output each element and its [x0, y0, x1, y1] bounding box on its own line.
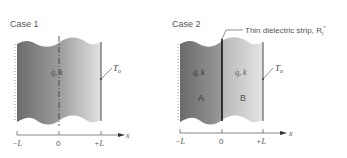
case1-to-label: To — [113, 63, 121, 74]
case2-a-name: A — [198, 93, 204, 103]
case2-region-b — [222, 37, 263, 122]
case2-region-a — [180, 41, 222, 125]
case2-tick-0: 0 — [219, 137, 224, 146]
case2-tick-pos-L: +L — [256, 137, 266, 146]
case2-a-generation-label: q̇, k — [193, 68, 205, 77]
case1-generation-label: q̇, k — [51, 68, 63, 77]
case1-to-leader — [101, 68, 112, 79]
case1-axis-label: x — [125, 131, 130, 140]
case2-to-label: To — [275, 63, 283, 74]
case2-axis-arrow-icon — [280, 131, 287, 135]
case1-tick-neg-L: −L — [12, 139, 22, 148]
case1-title: Case 1 — [10, 19, 39, 29]
case2-strip-label: Thin dielectric strip, Rt″ — [245, 25, 326, 36]
case2-to-leader — [263, 68, 273, 79]
diagram-canvas: Case 1 q̇, k To −L 0 +L x Case 2 — [0, 0, 347, 158]
case1-axis-arrow-icon — [118, 133, 125, 137]
case1-tick-0: 0 — [56, 139, 61, 148]
case1-group: Case 1 q̇, k To −L 0 +L x — [10, 19, 130, 148]
case2-b-name: B — [240, 93, 246, 103]
case2-axis-label: x — [288, 129, 293, 138]
case2-tick-neg-L: −L — [175, 137, 185, 146]
case2-title: Case 2 — [172, 19, 201, 29]
case2-b-generation-label: q̇, k — [235, 68, 247, 77]
case2-group: Case 2 Thin dielectric strip, Rt″ q̇, k … — [172, 19, 326, 146]
case1-tick-pos-L: +L — [94, 139, 104, 148]
